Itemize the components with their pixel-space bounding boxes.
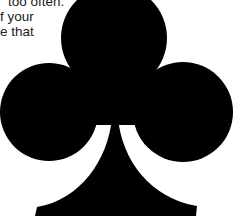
club-suit-icon [0, 0, 235, 217]
